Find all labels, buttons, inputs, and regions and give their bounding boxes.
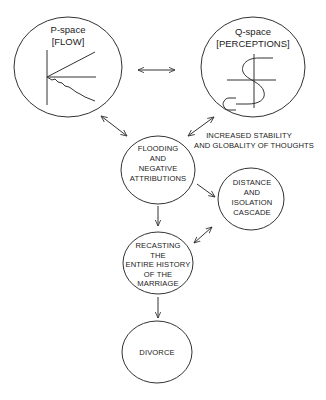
divorce-label: DIVORCE: [139, 348, 174, 357]
divorce-node: DIVORCE: [122, 321, 192, 383]
annotation-line2: AND GLOBALITY OF THOUGHTS: [194, 141, 314, 150]
distance-node: DISTANCE AND ISOLATION CASCADE: [218, 168, 284, 230]
flooding-label-1: FLOODING: [138, 144, 178, 153]
recasting-label-4: OF THE: [144, 270, 172, 279]
p-space-subtitle: [FLOW]: [52, 36, 85, 47]
distance-label-2: AND: [244, 188, 261, 197]
recasting-label-2: THE: [150, 251, 166, 260]
flooding-distance-arrow: [197, 184, 215, 197]
flooding-label-4: ATTRIBUTIONS: [130, 174, 186, 183]
cusp-catastrophe-icon: [223, 54, 276, 110]
cascade-diagram: P-space [FLOW] Q-space [PERCEPTIONS] INC…: [0, 0, 326, 400]
annotation-line1: INCREASED STABILITY: [206, 131, 292, 140]
p-space-title: P-space: [51, 24, 86, 35]
recasting-node: RECASTING THE ENTIRE HISTORY OF THE MARR…: [123, 232, 193, 294]
recasting-label-5: MARRIAGE: [137, 279, 178, 288]
recasting-label-3: ENTIRE HISTORY: [126, 260, 191, 269]
q-space-node: Q-space [PERCEPTIONS]: [201, 17, 305, 117]
q-space-subtitle: [PERCEPTIONS]: [216, 38, 289, 49]
flooding-label-2: AND: [150, 154, 167, 163]
recasting-label-1: RECASTING: [135, 241, 180, 250]
q-space-title: Q-space: [235, 26, 271, 37]
p-flooding-arrow: [101, 116, 127, 136]
flooding-label-3: NEGATIVE: [139, 164, 178, 173]
flow-graph-icon: [47, 50, 96, 105]
distance-label-1: DISTANCE: [233, 178, 272, 187]
distance-label-3: ISOLATION: [232, 198, 273, 207]
p-space-node: P-space [FLOW]: [14, 17, 122, 117]
recasting-distance-arrow: [194, 227, 212, 243]
distance-label-4: CASCADE: [233, 208, 270, 217]
flooding-node: FLOODING AND NEGATIVE ATTRIBUTIONS: [121, 136, 195, 204]
